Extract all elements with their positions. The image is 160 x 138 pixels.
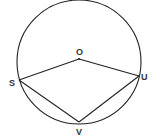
circle-diagram: O S U V [0, 0, 160, 138]
segment-OU [79, 59, 139, 76]
label-U: U [141, 72, 148, 82]
segment-UV [79, 76, 139, 122]
circle [17, 0, 141, 124]
label-O: O [76, 47, 83, 57]
label-V: V [76, 127, 82, 137]
segment-OS [19, 59, 79, 80]
center-point-O [78, 58, 80, 60]
label-S: S [9, 78, 15, 88]
